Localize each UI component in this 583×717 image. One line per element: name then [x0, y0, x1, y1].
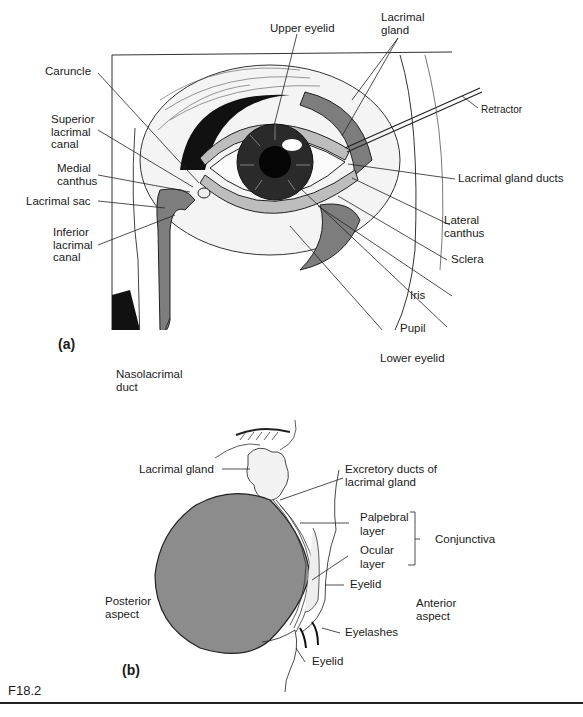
label-conjunctiva: Conjunctiva	[435, 533, 495, 546]
label-lower-eyelid: Lower eyelid	[380, 352, 445, 365]
label-upper-eyelid: Upper eyelid	[270, 22, 335, 35]
caruncle-shape	[198, 188, 210, 198]
label-eyelid-lower-b: Eyelid	[312, 655, 343, 668]
label-lacrimal-sac: Lacrimal sac	[26, 195, 91, 208]
pupil-shape	[259, 146, 291, 178]
label-lacrimal-gland-ducts: Lacrimal gland ducts	[458, 172, 563, 185]
label-lacrimal-gland: Lacrimal gland	[381, 11, 424, 37]
label-eyelashes: Eyelashes	[345, 626, 398, 639]
figure-id: F18.2	[8, 683, 41, 698]
lacrimal-gland-b	[247, 448, 289, 500]
eyelashes-b	[312, 622, 318, 645]
label-inferior-lacrimal-canal: Inferior lacrimal canal	[53, 226, 93, 264]
label-iris: Iris	[410, 289, 425, 302]
upper-eyelid-b	[302, 470, 339, 632]
label-caruncle: Caruncle	[45, 65, 91, 78]
label-posterior-aspect: Posterior aspect	[105, 595, 151, 620]
label-medial-canthus: Medial canthus	[57, 162, 97, 187]
label-sclera: Sclera	[451, 253, 484, 266]
conjunctiva-layers	[273, 500, 314, 632]
label-anterior-aspect: Anterior aspect	[416, 597, 456, 623]
label-lateral-canthus: Lateral canthus	[444, 214, 484, 239]
label-pupil: Pupil	[400, 322, 426, 335]
corneal-highlight	[282, 139, 302, 151]
label-eyelid-upper-b: Eyelid	[350, 578, 381, 591]
panel-a-letter: (a)	[58, 336, 75, 352]
brow-hatching	[236, 429, 290, 440]
bottom-rule	[0, 702, 583, 704]
bone-cutaway	[112, 290, 140, 330]
label-lacrimal-gland-b: Lacrimal gland	[139, 463, 214, 476]
label-nasolacrimal-duct: Nasolacrimal duct	[116, 368, 182, 393]
label-superior-lacrimal-canal: Superior lacrimal canal	[51, 113, 94, 151]
panel-b-letter: (b)	[122, 662, 140, 678]
eyeball-b	[155, 494, 310, 654]
lower-eyelid-b	[262, 630, 297, 692]
label-ocular-layer: Ocular layer	[360, 544, 394, 571]
label-excretory-ducts: Excretory ducts of lacrimal gland	[345, 463, 437, 488]
label-palpebral-layer: Palpebral layer	[360, 511, 409, 538]
label-retractor: Retractor	[481, 103, 522, 116]
